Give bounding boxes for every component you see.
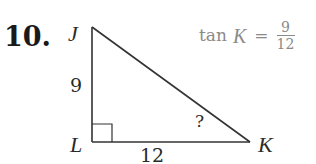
hypotenuse-jk: [92, 27, 250, 142]
vertex-k-label: K: [258, 134, 273, 156]
vertex-j-label: J: [68, 23, 78, 45]
right-angle-marker-icon: [92, 124, 112, 142]
vertex-l-label: L: [70, 134, 82, 156]
side-jl-length: 9: [70, 76, 82, 95]
side-lk-length: 12: [140, 146, 164, 164]
unknown-angle-marker: ?: [195, 113, 204, 130]
